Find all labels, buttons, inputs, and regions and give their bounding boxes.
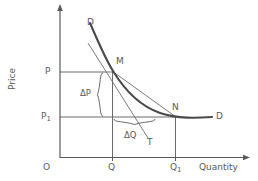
x-axis-arrowhead (243, 155, 250, 161)
delta-price-brace (98, 73, 104, 116)
curve-label-d-right: D (216, 112, 223, 121)
demand-curve-figure: Price Quantity O P P1 Q Q1 M N D D T ΔP … (0, 0, 258, 181)
y-axis-arrowhead (57, 4, 63, 11)
reference-lines-group (60, 72, 176, 158)
y-tick-P1-subscript: 1 (46, 115, 50, 123)
demand-curve-D (90, 23, 212, 118)
curve-label-d-top: D (87, 18, 94, 27)
axes-group (57, 4, 250, 160)
x-axis-label: Quantity (199, 163, 238, 172)
x-tick-label-Q: Q (108, 163, 115, 172)
delta-quantity-label: ΔQ (124, 131, 137, 140)
secant-line-MN (112, 71, 176, 117)
x-tick-Q1-subscript: 1 (177, 166, 181, 174)
y-tick-label-P1: P1 (41, 112, 51, 121)
chart-canvas (0, 0, 258, 181)
origin-label: O (43, 163, 50, 172)
point-label-N: N (172, 103, 179, 112)
y-tick-P-text: P (45, 66, 50, 76)
x-tick-Q-text: Q (108, 162, 115, 172)
y-tick-label-P: P (45, 67, 50, 76)
delta-quantity-bracket (114, 119, 155, 125)
delta-price-label: ΔP (80, 89, 91, 98)
tangent-label-t: T (147, 138, 153, 147)
y-axis-label: Price (8, 54, 17, 104)
x-tick-label-Q1: Q1 (170, 163, 182, 172)
point-label-M: M (116, 57, 124, 66)
